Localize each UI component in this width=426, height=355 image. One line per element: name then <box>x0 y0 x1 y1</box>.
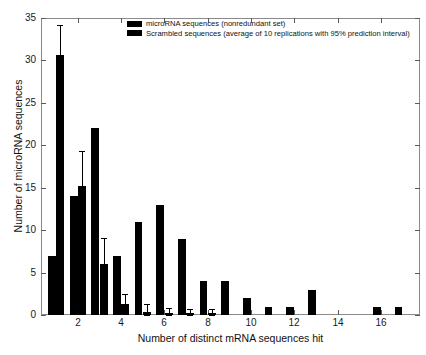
y-tick-label: 0 <box>2 310 36 320</box>
y-tick-mark-right <box>415 103 420 104</box>
x-tick-label: 4 <box>108 317 134 328</box>
bar-microrna <box>308 290 316 315</box>
y-tick-label: 35 <box>2 13 36 23</box>
error-bar-line <box>125 294 126 313</box>
bar-microrna <box>156 205 164 315</box>
legend-item-microrna: microRNA sequences (nonredundant set) <box>127 19 410 29</box>
x-tick-label: 2 <box>65 317 91 328</box>
y-tick-mark <box>41 315 46 316</box>
x-tick-label: 10 <box>238 317 264 328</box>
legend-label-scrambled: Scrambled sequences (average of 10 repli… <box>146 29 410 39</box>
y-tick-label: 5 <box>2 268 36 278</box>
y-tick-mark-right <box>415 145 420 146</box>
error-bar-line <box>147 304 148 315</box>
bar-microrna <box>265 307 273 315</box>
x-tick-label: 12 <box>281 317 307 328</box>
error-bar-line <box>60 25 61 84</box>
error-bar-line <box>82 151 83 221</box>
x-tick-label: 8 <box>195 317 221 328</box>
error-bar-cap-upper <box>209 309 215 310</box>
y-tick-mark-right <box>415 230 420 231</box>
y-tick-mark-right <box>415 188 420 189</box>
error-bar-line <box>104 238 105 291</box>
chart-legend: microRNA sequences (nonredundant set) Sc… <box>127 19 410 38</box>
error-bar-line <box>169 308 170 315</box>
legend-swatch-microrna <box>127 21 142 27</box>
y-axis-title: Number of microRNA sequences <box>12 61 24 251</box>
y-tick-mark <box>41 103 46 104</box>
y-tick-mark-right <box>415 273 420 274</box>
y-tick-mark <box>41 18 46 19</box>
x-tick-mark <box>338 310 339 315</box>
bar-microrna <box>48 256 56 315</box>
error-bar-cap-lower <box>122 312 128 313</box>
bar-microrna <box>91 128 99 315</box>
error-bar-cap-upper <box>166 308 172 309</box>
bar-microrna <box>243 298 251 315</box>
bar-microrna <box>373 307 381 315</box>
bar-microrna <box>286 307 294 315</box>
error-bar-cap-lower <box>187 315 193 316</box>
bar-microrna <box>200 281 208 315</box>
error-bar-cap-lower <box>101 291 107 292</box>
bar-microrna <box>178 239 186 315</box>
y-tick-mark <box>41 145 46 146</box>
y-tick-mark <box>41 230 46 231</box>
error-bar-cap-lower <box>79 221 85 222</box>
y-tick-mark <box>41 273 46 274</box>
x-tick-mark-top <box>121 18 122 23</box>
error-bar-cap-upper <box>187 309 193 310</box>
error-bar-cap-lower <box>166 315 172 316</box>
legend-label-microrna: microRNA sequences (nonredundant set) <box>146 19 285 29</box>
error-bar-cap-upper <box>57 25 63 26</box>
y-tick-mark <box>41 60 46 61</box>
y-tick-mark-right <box>415 18 420 19</box>
x-axis-title: Number of distinct mRNA sequences hit <box>41 332 420 344</box>
bar-microrna <box>221 281 229 315</box>
bar-microrna <box>135 222 143 315</box>
x-tick-mark-top <box>78 18 79 23</box>
error-bar-cap-lower <box>209 315 215 316</box>
x-tick-label: 6 <box>151 317 177 328</box>
error-bar-cap-upper <box>101 238 107 239</box>
x-tick-mark <box>251 310 252 315</box>
y-tick-mark <box>41 188 46 189</box>
x-tick-mark <box>381 310 382 315</box>
error-bar-cap-upper <box>122 294 128 295</box>
error-bar-cap-upper <box>144 304 150 305</box>
error-bar-cap-lower <box>144 315 150 316</box>
bar-microrna <box>70 196 78 315</box>
bar-scrambled <box>56 55 64 315</box>
y-tick-mark-right <box>415 60 420 61</box>
y-tick-mark-right <box>415 315 420 316</box>
x-tick-label: 16 <box>368 317 394 328</box>
x-tick-label: 14 <box>325 317 351 328</box>
chart-figure: 05101520253035 Number of microRNA sequen… <box>0 0 426 355</box>
legend-swatch-scrambled <box>127 30 142 36</box>
bar-microrna <box>113 256 121 315</box>
x-tick-mark <box>294 310 295 315</box>
error-bar-cap-upper <box>79 151 85 152</box>
bar-microrna <box>395 307 403 315</box>
legend-item-scrambled: Scrambled sequences (average of 10 repli… <box>127 29 410 39</box>
error-bar-cap-lower <box>57 84 63 85</box>
